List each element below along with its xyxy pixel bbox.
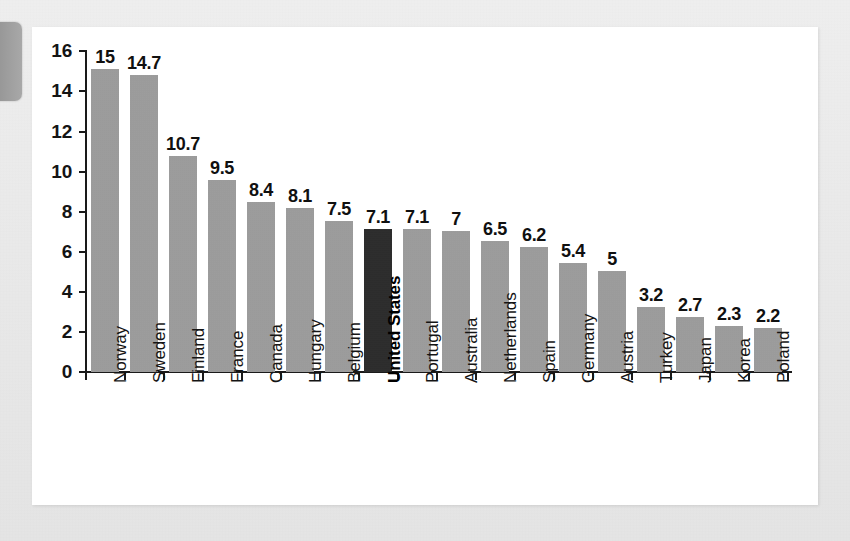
y-axis-label-8: 8 [32,202,72,221]
category-label-norway: Norway [112,243,129,383]
category-label-hungary: Hungary [307,243,324,383]
y-axis-label-16: 16 [32,41,72,60]
figure-panel: 16 14 12 10 8 6 4 2 0 [32,27,818,505]
y-axis-label-6: 6 [32,242,72,261]
y-axis-tick [79,131,86,133]
category-label-austria: Austria [619,243,636,383]
category-label-japan: Japan [697,243,714,383]
y-axis-tick [79,331,86,333]
bar-chart-plot: 16 14 12 10 8 6 4 2 0 [32,27,818,505]
y-axis-label-12: 12 [32,122,72,141]
category-label-belgium: Belgium [346,243,363,383]
category-label-korea: Korea [736,243,753,383]
y-axis-tick [79,211,86,213]
category-label-germany: Germany [580,243,597,383]
value-label-sweden: 14.7 [114,54,174,72]
category-label-turkey: Turkey [658,243,675,383]
category-label-finland: Finland [190,243,207,383]
y-axis-label-10: 10 [32,162,72,181]
category-label-spain: Spain [541,243,558,383]
category-label-united-states: United States [386,243,403,383]
y-axis-tick [79,291,86,293]
category-label-australia: Australia [463,243,480,383]
category-label-portugal: Portugal [424,243,441,383]
y-axis-label-14: 14 [32,81,72,100]
left-edge-tab [0,22,22,101]
category-label-netherlands: Netherlands [502,243,519,383]
category-label-sweden: Sweden [151,243,168,383]
y-axis-label-0: 0 [32,362,72,381]
category-label-canada: Canada [268,243,285,383]
y-axis-label-4: 4 [32,282,72,301]
category-label-france: France [229,243,246,383]
value-label-france: 9.5 [192,159,252,177]
y-axis-tick [79,90,86,92]
x-axis-tick [85,373,87,380]
category-label-poland: Poland [775,243,792,383]
value-label-finland: 10.7 [153,135,213,153]
y-axis-tick [79,251,86,253]
y-axis-tick [79,171,86,173]
y-axis-label-2: 2 [32,322,72,341]
